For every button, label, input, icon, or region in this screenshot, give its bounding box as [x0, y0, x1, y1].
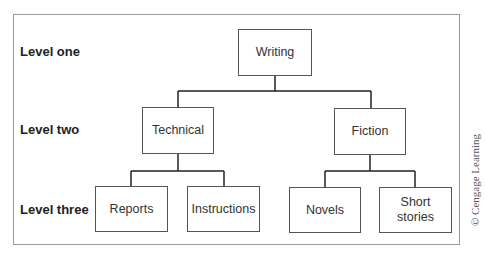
node-instructions-label: Instructions	[192, 202, 256, 217]
node-writing-label: Writing	[256, 45, 295, 60]
copyright-credit: © Cengage Learning	[468, 120, 482, 240]
node-fiction: Fiction	[334, 108, 406, 155]
node-writing: Writing	[238, 29, 312, 76]
node-short-stories-line2: stories	[397, 210, 434, 225]
copyright-credit-text: © Cengage Learning	[469, 134, 481, 226]
node-technical-label: Technical	[152, 123, 204, 138]
node-reports-label: Reports	[110, 202, 154, 217]
level-two-label: Level two	[20, 122, 79, 137]
node-novels-label: Novels	[306, 203, 344, 218]
level-one-label: Level one	[20, 44, 80, 59]
level-three-label: Level three	[20, 202, 89, 217]
node-instructions: Instructions	[187, 186, 260, 232]
node-technical: Technical	[142, 107, 214, 154]
node-short-stories-line1: Short	[401, 195, 431, 210]
node-short-stories: Short stories	[379, 187, 452, 233]
node-fiction-label: Fiction	[352, 124, 389, 139]
node-reports: Reports	[95, 186, 168, 232]
node-novels: Novels	[289, 187, 361, 233]
